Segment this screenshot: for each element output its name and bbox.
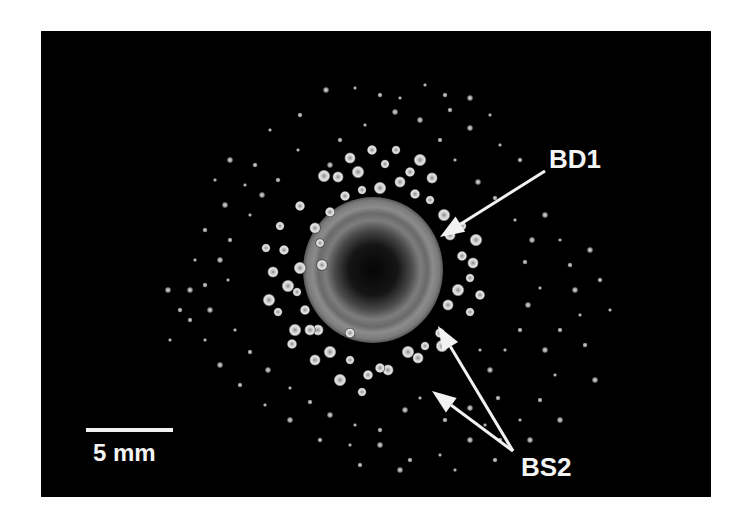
label-bs2: BS2 — [521, 454, 572, 480]
label-bd1: BD1 — [549, 146, 601, 172]
scale-bar-label: 5 mm — [93, 441, 156, 465]
scale-bar — [86, 428, 173, 432]
